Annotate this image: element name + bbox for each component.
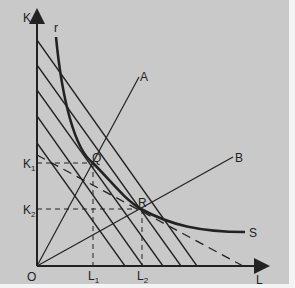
l-axis-label: L [256, 273, 263, 287]
point-q-label: Q [92, 151, 101, 165]
curve-end-label: S [249, 226, 257, 240]
k-axis-label: K [23, 11, 31, 25]
origin-label: O [27, 270, 36, 284]
ray-a-label: A [140, 70, 148, 84]
k1-label: K1 [23, 157, 36, 173]
curve-start-label: r [54, 21, 58, 35]
k2-label: K2 [23, 203, 36, 219]
ray-b-label: B [235, 151, 243, 165]
l2-label: L2 [137, 269, 149, 285]
l1-label: L1 [88, 269, 100, 285]
isocost-isoquant-diagram: K L O r S A B Q R K1 K2 L1 L2 [0, 0, 295, 288]
point-r-label: R [138, 196, 147, 210]
